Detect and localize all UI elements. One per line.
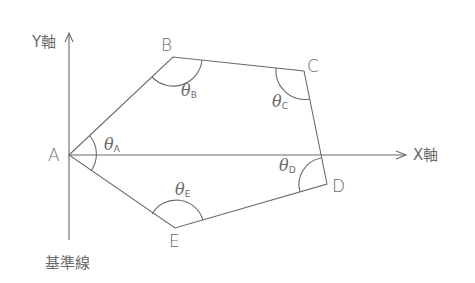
angle-label-a: θA	[104, 137, 120, 154]
baseline-label: 基準線	[45, 256, 90, 271]
x-axis-label: X軸	[413, 148, 438, 163]
vertex-label-b: B	[161, 37, 172, 54]
vertex-label-c: C	[307, 58, 319, 75]
vertex-label-a: A	[48, 147, 60, 164]
vertex-label-e: E	[169, 233, 180, 250]
traverse-diagram: Y軸 X軸 基準線 A B C D E θA θB θC θD θE	[0, 0, 475, 283]
angle-label-d: θD	[279, 158, 296, 175]
angle-label-e: θE	[175, 182, 190, 199]
angle-arc-a	[90, 136, 96, 171]
y-axis-label: Y軸	[32, 35, 56, 50]
angle-label-b: θB	[181, 83, 197, 100]
vertex-label-d: D	[332, 178, 345, 195]
diagram-lines	[0, 0, 475, 283]
angle-label-c: θC	[272, 94, 288, 111]
